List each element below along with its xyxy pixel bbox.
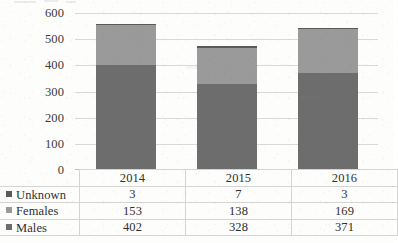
legend-swatch-icon [6, 207, 12, 213]
table-cell-females-2015: 138 [186, 203, 292, 220]
scan-artifact [14, 1, 36, 3]
table-column-header-2016: 2016 [292, 170, 398, 187]
table-cell-females-2016: 169 [292, 203, 398, 220]
legend-swatch-icon [6, 191, 12, 197]
table-cell-males-2014: 402 [80, 219, 186, 236]
bar-segment-males-2015 [197, 84, 257, 170]
table-cell-unknown-2014: 3 [80, 186, 186, 203]
bar-2016 [298, 28, 358, 170]
legend-label: Males [16, 220, 47, 234]
y-axis-tick-label: 300 [45, 85, 64, 98]
legend-row-unknown: Unknown [0, 186, 80, 203]
legend-label: Unknown [16, 187, 66, 201]
bar-segment-females-2016 [298, 29, 358, 73]
table-row: Females153138169 [0, 203, 398, 220]
legend-swatch-icon [6, 224, 12, 230]
bar-2015 [197, 46, 257, 170]
table-column-header-2014: 2014 [80, 170, 186, 187]
gridline [75, 13, 378, 14]
bar-segment-females-2014 [96, 25, 156, 65]
y-axis: 6005004003002001000 [0, 13, 70, 170]
table-cell-unknown-2015: 7 [186, 186, 292, 203]
table-cell-males-2016: 371 [292, 219, 398, 236]
scan-artifact [44, 0, 58, 2]
table-cell-unknown-2016: 3 [292, 186, 398, 203]
bar-segment-females-2015 [197, 48, 257, 84]
table-row: Males402328371 [0, 219, 398, 236]
y-axis-tick-label: 200 [45, 111, 64, 124]
table-header-row: 201420152016 [0, 170, 398, 187]
plot-area [75, 13, 378, 170]
y-axis-tick-label: 400 [45, 59, 64, 72]
legend-label: Females [16, 204, 58, 218]
scan-artifact [66, 1, 76, 3]
table-row: Unknown373 [0, 186, 398, 203]
bar-segment-males-2014 [96, 65, 156, 170]
table-cell-males-2015: 328 [186, 219, 292, 236]
legend-row-males: Males [0, 219, 80, 236]
legend-row-females: Females [0, 203, 80, 220]
y-axis-tick-label: 500 [45, 33, 64, 46]
table-column-header-2015: 2015 [186, 170, 292, 187]
y-axis-tick-label: 100 [45, 138, 64, 151]
chart-data-table: 201420152016Unknown373Females153138169Ma… [0, 169, 398, 236]
bar-2014 [96, 24, 156, 170]
table-cell-females-2014: 153 [80, 203, 186, 220]
table-corner-cell [0, 170, 80, 187]
y-axis-tick-label: 600 [45, 7, 64, 20]
bar-segment-males-2016 [298, 73, 358, 170]
